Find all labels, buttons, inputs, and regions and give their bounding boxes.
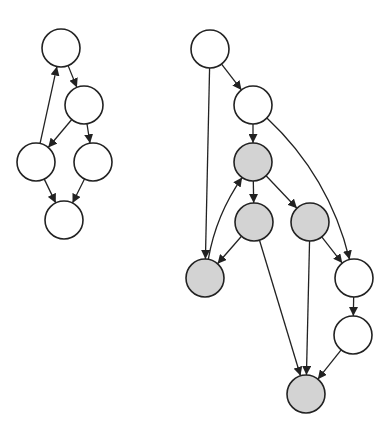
- left-graph-nodes: [17, 29, 112, 239]
- node-R7: [335, 259, 373, 297]
- nodes-layer: [17, 29, 373, 413]
- node-R8: [334, 316, 372, 354]
- right-graph-nodes: [186, 30, 373, 413]
- shaded-node-R5: [291, 203, 329, 241]
- edge-L1-to-L2: [68, 66, 77, 88]
- diagram-canvas: [0, 0, 389, 432]
- shaded-node-R9: [287, 375, 325, 413]
- edge-L3-to-L5: [44, 179, 55, 203]
- edge-R8-to-R9: [318, 350, 341, 379]
- edge-R5-to-R9: [306, 241, 309, 375]
- edge-L4-to-L5: [72, 179, 84, 203]
- node-R1: [191, 30, 229, 68]
- node-L3: [17, 143, 55, 181]
- shaded-node-R6: [186, 259, 224, 297]
- node-R2: [234, 86, 272, 124]
- shaded-node-R4: [235, 203, 273, 241]
- right-graph-edges: [205, 64, 353, 379]
- edge-L2-to-L4: [87, 124, 90, 143]
- node-L5: [45, 201, 83, 239]
- edge-R5-to-R7: [322, 237, 343, 263]
- shaded-node-R3: [234, 143, 272, 181]
- edge-R4-to-R6: [218, 236, 242, 263]
- node-L4: [74, 143, 112, 181]
- edge-R3-to-R5: [266, 176, 297, 208]
- edge-R4-to-R9: [259, 240, 300, 376]
- node-L2: [65, 86, 103, 124]
- edge-R1-to-R2: [222, 64, 242, 90]
- edge-R1-to-R6: [205, 68, 209, 259]
- edge-L2-to-L3: [48, 120, 72, 148]
- edge-L3-to-L1: [40, 67, 57, 144]
- node-L1: [42, 29, 80, 67]
